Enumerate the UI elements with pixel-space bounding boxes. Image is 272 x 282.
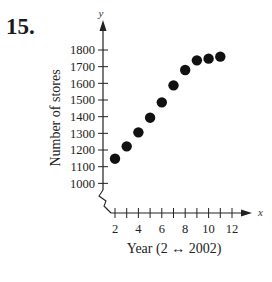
data-point [203, 53, 213, 63]
data-point [145, 112, 155, 122]
y-tick-label: 1500 [70, 93, 95, 107]
y-tick-label: 1300 [70, 127, 95, 141]
axis-break-icon [99, 190, 111, 213]
data-point [122, 141, 132, 151]
data-point [215, 51, 225, 61]
data-point [110, 153, 120, 163]
y-tick-label: 1200 [70, 143, 95, 157]
y-tick-label: 1000 [70, 177, 95, 191]
data-point [157, 97, 167, 107]
x-tick-label: 2 [112, 222, 118, 236]
x-tick-label: 4 [135, 222, 142, 236]
x-axis-variable: x [257, 206, 263, 218]
data-point [133, 127, 143, 137]
data-point [180, 65, 190, 75]
y-tick-label: 1700 [70, 60, 95, 74]
x-tick-label: 6 [159, 222, 165, 236]
y-axis-title: Number of stores [48, 69, 63, 166]
x-tick-label: 10 [202, 222, 215, 236]
y-tick-label: 1800 [70, 43, 95, 57]
x-tick-label: 8 [182, 222, 188, 236]
x-tick-label: 12 [226, 222, 239, 236]
y-tick-label: 1600 [70, 77, 95, 91]
x-axis-arrow-icon [241, 210, 252, 217]
y-tick-label: 1400 [70, 110, 95, 124]
y-axis-variable: y [98, 7, 104, 19]
scatter-chart: yx10001100120013001400150016001700180024… [0, 0, 272, 282]
data-point [168, 80, 178, 90]
y-axis-arrow-icon [100, 20, 107, 31]
data-point [192, 55, 202, 65]
x-axis-title: Year (2 ↔ 2002) [127, 241, 222, 257]
y-tick-label: 1100 [70, 160, 95, 174]
